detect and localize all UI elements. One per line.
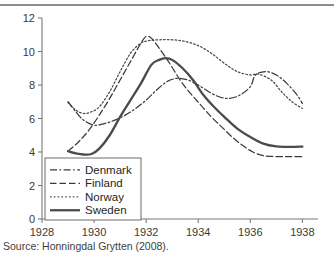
y-tick-label: 4: [29, 146, 35, 158]
y-tick-label: 0: [29, 213, 35, 225]
series-line-sweden: [68, 58, 302, 154]
figure-container: 024681012 192819301932193419361938 Denma…: [0, 0, 334, 258]
source-caption: Source: Honningdal Grytten (2008).: [3, 240, 169, 253]
x-tick-label: 1932: [134, 226, 158, 238]
x-tick-label: 1938: [290, 226, 314, 238]
y-tick-label: 6: [29, 113, 35, 125]
chart-legend: DenmarkFinlandNorwaySweden: [45, 158, 141, 220]
legend-label-finland: Finland: [85, 177, 123, 189]
series-line-finland: [68, 36, 302, 157]
y-tick-label: 2: [29, 180, 35, 192]
x-tick-label: 1930: [82, 226, 106, 238]
y-tick-label: 10: [23, 46, 35, 58]
chart-plot-area: 024681012 192819301932193419361938 Denma…: [0, 10, 334, 238]
series-line-norway: [68, 40, 302, 114]
legend-label-norway: Norway: [85, 191, 124, 203]
x-axis-ticks: 192819301932193419361938: [30, 219, 315, 238]
x-tick-label: 1928: [30, 226, 54, 238]
y-axis-ticks: 024681012: [23, 12, 42, 225]
y-tick-label: 12: [23, 12, 35, 24]
legend-label-sweden: Sweden: [85, 204, 127, 216]
x-tick-label: 1934: [186, 226, 210, 238]
legend-label-denmark: Denmark: [85, 164, 132, 176]
series-line-denmark: [68, 72, 302, 126]
clipped-title-fragment: [138, 0, 150, 4]
top-divider-rule: [0, 4, 334, 6]
x-tick-label: 1936: [238, 226, 262, 238]
y-tick-label: 8: [29, 79, 35, 91]
data-series-group: [68, 36, 302, 157]
line-chart: 024681012 192819301932193419361938 Denma…: [0, 10, 334, 238]
